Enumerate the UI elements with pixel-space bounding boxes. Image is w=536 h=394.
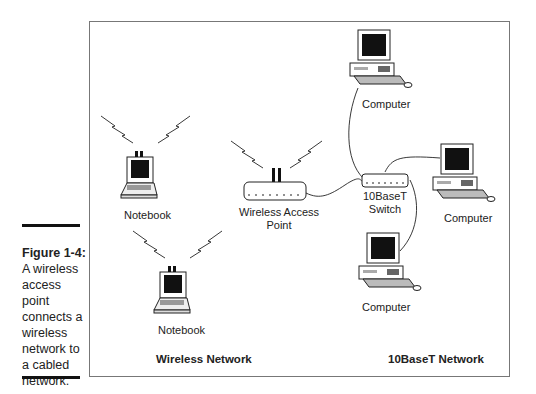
label-switch-line1: 10BaseT: [360, 190, 410, 203]
cables: [306, 88, 440, 251]
wireless-access-point: [231, 141, 322, 200]
label-notebook-2: Notebook: [158, 324, 205, 337]
notebook-1: [101, 116, 190, 198]
label-wireless-network: Wireless Network: [156, 353, 252, 365]
computer-3: [359, 233, 421, 291]
label-switch-line2: Switch: [360, 203, 410, 216]
label-access-point-line1: Wireless Access: [239, 206, 319, 219]
switch: [362, 174, 408, 187]
label-notebook-1: Notebook: [124, 209, 171, 222]
label-computer-3: Computer: [362, 301, 410, 314]
label-access-point-line2: Point: [239, 219, 319, 232]
label-access-point: Wireless Access Point: [239, 206, 319, 232]
network-diagram: [0, 0, 536, 394]
label-computer-1: Computer: [362, 98, 410, 111]
computer-2: [433, 144, 495, 202]
label-switch: 10BaseT Switch: [360, 190, 410, 216]
label-10baset-network: 10BaseT Network: [388, 353, 484, 365]
notebook-2: [133, 231, 222, 313]
label-computer-2: Computer: [444, 212, 492, 225]
computer-1: [350, 30, 412, 88]
